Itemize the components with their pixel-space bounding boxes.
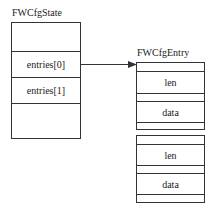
field-spacer [137,122,204,130]
field-entries-1: entries[1] [12,77,80,103]
field-spacer [137,165,204,173]
field-label: data [162,179,179,190]
fwcfgentry-box-1: len data [136,135,205,203]
field-len: len [137,144,204,165]
field-data: data [137,173,204,194]
field-spacer [137,194,204,203]
field-data: data [137,101,204,122]
field-label: data [162,107,179,118]
field-label: entries[1] [27,85,65,96]
fwcfgentry-title: FWCfgEntry [137,47,189,58]
fwcfgentry-box-0: len data [136,62,205,130]
field-len: len [137,71,204,93]
field-spacer [137,93,204,101]
field-label: len [164,77,176,88]
field-label: entries[0] [27,59,65,70]
pointer-arrow-line [81,64,131,65]
fwcfgstate-title: FWCfgState [12,7,62,18]
fwcfgstate-box: entries[0] entries[1] [11,22,81,139]
field-entries-0: entries[0] [12,51,80,77]
field-empty-bottom [12,103,80,139]
field-label: len [164,150,176,161]
